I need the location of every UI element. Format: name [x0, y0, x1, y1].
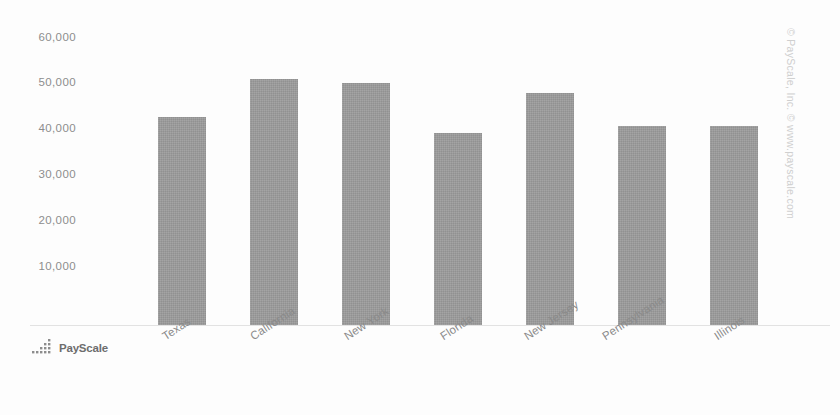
payscale-logo-text: PayScale [59, 342, 108, 354]
x-tick-label-new-york: New York [342, 305, 391, 342]
x-tick-label-illinois: Illinois [712, 314, 747, 342]
x-tick-label-florida: Florida [438, 312, 475, 342]
x-axis: Texas California New York Florida New Je… [0, 0, 840, 415]
payscale-logo: PayScale [32, 337, 108, 359]
copyright-watermark: © PayScale, Inc. © www.payscale.com [785, 28, 797, 219]
bar-chart: 60,000 50,000 40,000 30,000 20,000 10,00… [0, 0, 840, 415]
payscale-dot-matrix-icon [32, 339, 54, 357]
x-tick-label-new-jersey: New Jersey [522, 298, 581, 342]
x-tick-label-pennsylvania: Pennsylvania [600, 293, 666, 342]
x-tick-label-california: California [248, 304, 297, 342]
x-tick-label-texas: Texas [160, 315, 193, 342]
